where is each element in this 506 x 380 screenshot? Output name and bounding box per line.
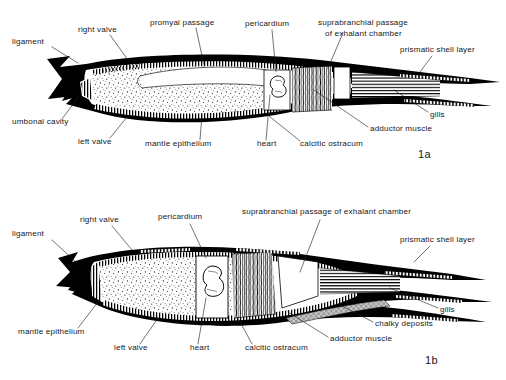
label-calcitic_ostracum: calcitic ostracum: [300, 139, 363, 148]
label-gills: gills: [430, 110, 445, 119]
label-prismatic_layer: prismatic shell layer: [400, 235, 475, 244]
label-mantle_epithelium: mantle epithelium: [145, 139, 212, 148]
label-promyal_passage: promyal passage: [150, 18, 215, 27]
diagram-canvas: ligamentright valvepromyal passageperica…: [0, 0, 506, 380]
label-umbonal_cavity: umbonal cavity: [12, 117, 69, 126]
label-prismatic_layer: prismatic shell layer: [400, 45, 475, 54]
label-mantle_epithelium: mantle epithelium: [18, 327, 85, 336]
heart-1a: [270, 76, 286, 97]
label-heart: heart: [257, 139, 277, 148]
label-calcitic_ostracum: calcitic ostracum: [245, 343, 308, 352]
label-adductor_muscle: adductor muscle: [370, 124, 432, 133]
label-pericardium: pericardium: [245, 19, 289, 28]
pericardium-1a: [264, 70, 290, 110]
label-heart: heart: [190, 343, 210, 352]
label-adductor_muscle: adductor muscle: [330, 334, 392, 343]
label-right_valve: right valve: [78, 25, 117, 34]
suprabranchial-passage-1a: [334, 67, 350, 99]
label-ligament: ligament: [12, 229, 45, 238]
label-right_valve: right valve: [80, 215, 119, 224]
heart-1b: [203, 266, 223, 296]
figure-number-1a: 1a: [418, 148, 431, 160]
label-suprabranchial_2: of exhalant chamber: [325, 29, 402, 38]
label-gills: gills: [440, 305, 455, 314]
figure-number-1b: 1b: [425, 354, 438, 366]
label-chalky_deposits: chalky deposits: [375, 319, 433, 328]
label-suprabranchial_1: suprabranchial passage: [318, 18, 408, 27]
label-left_valve: left valve: [78, 137, 112, 146]
label-left_valve: left valve: [114, 343, 148, 352]
adductor-muscle-1b: [232, 252, 276, 318]
label-ligament: ligament: [12, 37, 45, 46]
label-suprabranchial: suprabranchial passage of exhalant chamb…: [242, 207, 411, 216]
anatomical-figure: ligamentright valvepromyal passageperica…: [0, 0, 506, 380]
adductor-muscle-1a: [292, 66, 332, 112]
label-pericardium: pericardium: [158, 212, 202, 221]
pericardium-1b: [196, 256, 228, 318]
